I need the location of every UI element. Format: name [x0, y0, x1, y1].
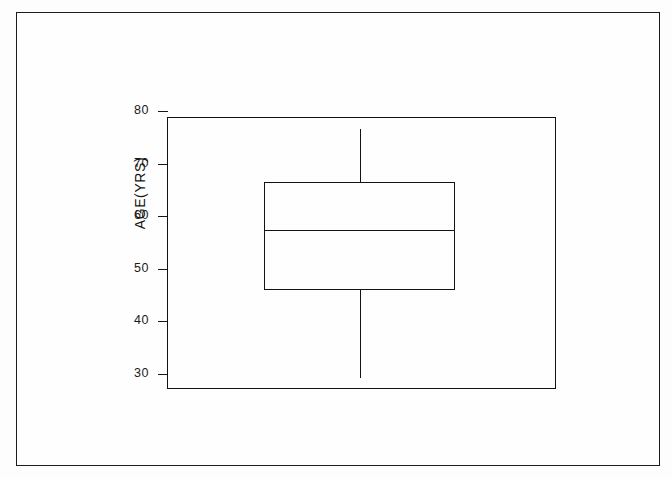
- y-tick-label-70: 70: [115, 157, 149, 170]
- whisker-upper: [360, 129, 361, 182]
- y-tick-label-40: 40: [115, 314, 149, 327]
- y-tick-mark-80: [158, 111, 168, 112]
- y-tick-40: 40: [113, 314, 149, 328]
- y-tick-label-50: 50: [115, 262, 149, 275]
- y-tick-50: 50: [113, 262, 149, 276]
- y-tick-label-30: 30: [115, 367, 149, 380]
- figure-canvas: AGE(YRS) 80 70 60 50 40 30: [0, 0, 672, 479]
- y-tick-label-60: 60: [115, 209, 149, 222]
- plot-frame: [167, 117, 556, 389]
- whisker-lower: [360, 290, 361, 378]
- y-tick-label-80: 80: [115, 104, 149, 117]
- median-line: [264, 230, 455, 231]
- page-border: AGE(YRS) 80 70 60 50 40 30: [16, 12, 660, 466]
- y-tick-60: 60: [113, 209, 149, 223]
- y-tick-30: 30: [113, 367, 149, 381]
- y-tick-80: 80: [113, 104, 149, 118]
- y-tick-70: 70: [113, 157, 149, 171]
- y-axis-title: AGE(YRS): [130, 128, 150, 258]
- box-iqr-rect: [264, 182, 455, 290]
